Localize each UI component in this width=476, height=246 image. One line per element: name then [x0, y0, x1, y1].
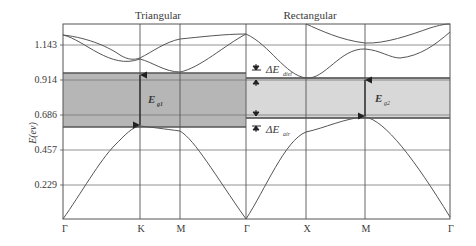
y-tick-0914: 0.914 [35, 74, 58, 85]
y-axis-label: E(ev) [27, 122, 39, 145]
k-label-gamma-3: Γ [448, 223, 454, 234]
y-tick-0457: 0.457 [35, 144, 58, 155]
panel-title-rectangular: Rectangular [283, 9, 336, 21]
eg1-label: E [147, 93, 155, 105]
band-structure-chart: Triangular Rectangular 1.143 0.914 0.686… [0, 0, 476, 246]
y-tick-1143: 1.143 [35, 39, 58, 50]
k-label-k: K [137, 223, 145, 234]
eg1-subscript: g1 [156, 101, 163, 107]
k-label-m-1: M [177, 223, 186, 234]
delta-e-diel-subscript: diel [283, 71, 292, 77]
bands-rectangular [246, 24, 450, 219]
delta-e-air-label: ΔE [265, 123, 279, 135]
delta-e-air-subscript: air [283, 131, 291, 137]
y-tick-0229: 0.229 [35, 179, 58, 190]
y-tick-0686: 0.686 [35, 109, 58, 120]
delta-e-diel-label: ΔE [265, 63, 279, 75]
k-label-x: X [303, 223, 311, 234]
eg2-label: E [374, 92, 382, 104]
panel-title-triangular: Triangular [135, 9, 181, 21]
band-gap-rectangular [246, 78, 450, 118]
eg2-subscript: g2 [384, 100, 390, 106]
k-label-gamma-2: Γ [244, 223, 250, 234]
k-label-gamma-1: Γ [62, 223, 68, 234]
k-label-m-2: M [362, 223, 371, 234]
